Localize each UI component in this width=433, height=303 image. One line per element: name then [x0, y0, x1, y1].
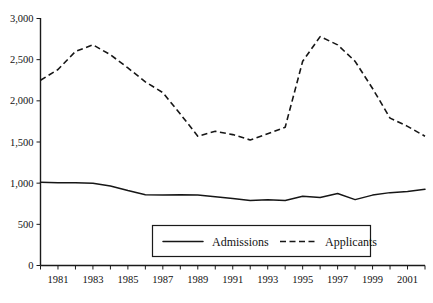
y-tick-label: 2,500: [10, 54, 34, 65]
x-tick-label: 1981: [47, 274, 68, 285]
x-tick-label: 1991: [222, 274, 243, 285]
series-line-admissions: [41, 182, 426, 200]
chart-legend: Admissions Applicants: [153, 226, 378, 257]
chart-figure: 05001,0001,5002,0002,5003,000 1981198319…: [0, 0, 433, 303]
y-tick-label: 1,500: [10, 137, 34, 148]
y-tick-label: 3,000: [10, 13, 34, 24]
y-tick-label: 500: [18, 219, 34, 230]
x-tick-label: 1999: [362, 274, 383, 285]
y-tick-label: 1,000: [10, 178, 34, 189]
legend-label-applicants: Applicants: [325, 235, 377, 249]
x-tick-label: 1987: [152, 274, 173, 285]
x-axis-tick-group: 1981198319851987198919911993199519971999…: [41, 266, 426, 285]
x-tick-label: 1995: [292, 274, 313, 285]
x-tick-label: 1983: [82, 274, 103, 285]
series-line-applicants: [41, 37, 426, 140]
legend-label-admissions: Admissions: [212, 235, 269, 249]
x-tick-label: 1989: [187, 274, 208, 285]
y-axis-tick-group: 05001,0001,5002,0002,5003,000: [10, 13, 41, 271]
series-layer: [41, 37, 426, 201]
y-tick-label: 2,000: [10, 95, 34, 106]
x-tick-label: 1985: [117, 274, 138, 285]
x-tick-label: 1997: [327, 274, 348, 285]
x-tick-label: 2001: [397, 274, 418, 285]
line-chart-canvas: 05001,0001,5002,0002,5003,000 1981198319…: [0, 0, 433, 303]
y-tick-label: 0: [28, 260, 33, 271]
x-tick-label: 1993: [257, 274, 278, 285]
